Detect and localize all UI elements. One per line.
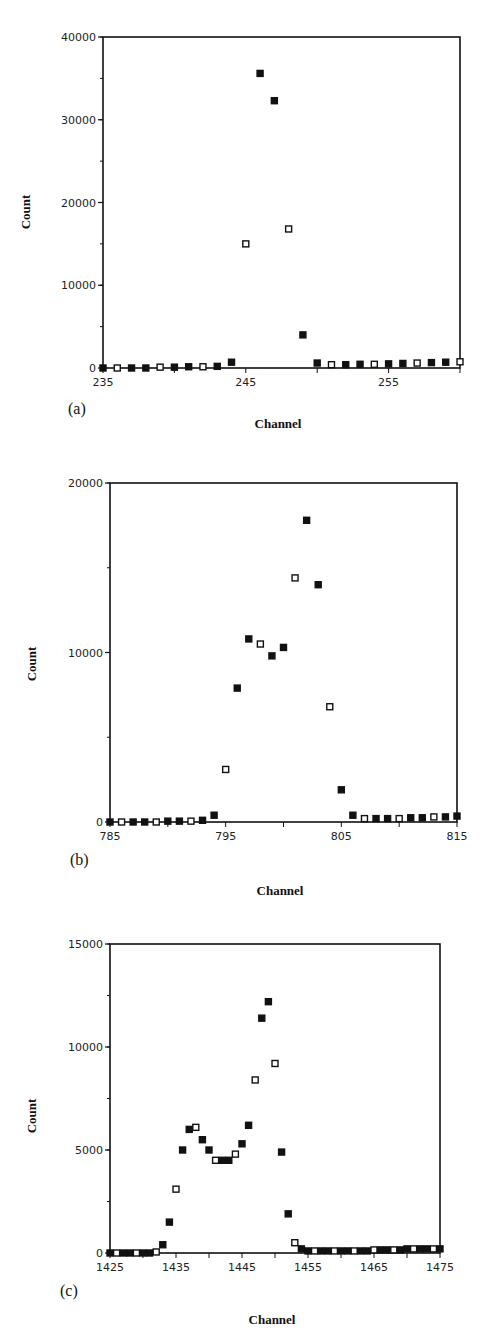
data-point [350,812,356,818]
panel-label-a: (a) [68,400,86,418]
data-point [153,1249,159,1255]
data-point [442,814,448,820]
plot-area-b: 01000020000785795805815 [68,477,468,843]
x-tick-label: 1455 [294,1261,322,1274]
data-point [457,359,463,365]
data-point [130,819,136,825]
plot-frame [110,483,457,822]
data-point [404,1246,410,1252]
y-axis-title-c: Count [24,1098,39,1133]
y-tick-label: 15000 [68,938,103,951]
data-point [361,816,367,822]
x-axis-title-b: Channel [257,883,304,898]
plot-frame [110,944,440,1253]
data-point [114,1250,120,1256]
y-tick-label: 0 [96,1247,103,1260]
data-point [272,1060,278,1066]
data-point [229,359,235,365]
data-point [304,517,310,523]
plot-area-c: 050001000015000142514351445145514651475 [68,938,454,1274]
data-point [419,815,425,821]
data-point [193,1124,199,1130]
data-point [252,1077,258,1083]
plot-area-a: 010000200003000040000235245255 [61,31,463,389]
data-point [454,813,460,819]
data-point [357,361,363,367]
data-point [214,363,220,369]
data-point [430,1246,436,1252]
data-point [286,226,292,232]
x-tick-label: 805 [331,830,352,843]
data-point [325,1248,331,1254]
y-tick-label: 10000 [61,279,96,292]
x-tick-label: 1465 [360,1261,388,1274]
data-point [385,816,391,822]
data-point [129,365,135,371]
x-tick-label: 1425 [96,1261,124,1274]
panel-label-c: (c) [60,1282,78,1300]
data-point [397,1247,403,1253]
x-tick-label: 245 [235,376,256,389]
data-point [157,364,163,370]
data-point [437,1246,443,1252]
data-point [119,819,125,825]
data-point [147,1250,153,1256]
x-tick-label: 815 [447,830,468,843]
y-axis-title-b: Count [24,646,39,681]
data-point [411,1246,417,1252]
scatter-chart-b: 01000020000785795805815 Count Channel (b… [0,440,486,900]
data-point [211,812,217,818]
data-point [371,1247,377,1253]
y-tick-label: 10000 [68,647,103,660]
scatter-chart-a: 010000200003000040000235245255 Count Cha… [0,0,486,440]
data-point [271,98,277,104]
data-point [226,1157,232,1163]
data-point [213,1157,219,1163]
data-point [417,1246,423,1252]
data-point [300,332,306,338]
data-point [312,1248,318,1254]
data-point [160,1242,166,1248]
data-point [364,1248,370,1254]
data-point [200,364,206,370]
data-point [400,360,406,366]
data-point [281,644,287,650]
scatter-chart-c: 050001000015000142514351445145514651475 … [0,900,486,1332]
data-point [165,818,171,824]
data-point [443,359,449,365]
data-point [396,816,402,822]
data-point [143,365,149,371]
y-tick-label: 5000 [75,1144,103,1157]
data-point [265,999,271,1005]
data-point [246,636,252,642]
data-point [186,364,192,370]
panel-a: 010000200003000040000235245255 Count Cha… [0,0,486,440]
data-point [292,575,298,581]
data-point [200,817,206,823]
y-tick-label: 20000 [61,197,96,210]
data-point [140,1250,146,1256]
panel-b: 01000020000785795805815 Count Channel (b… [0,440,486,900]
data-point [107,1250,113,1256]
data-point [166,1219,172,1225]
data-point [343,362,349,368]
data-point [107,819,113,825]
data-point [243,241,249,247]
data-point [246,1122,252,1128]
data-point [232,1151,238,1157]
x-axis-title-a: Channel [255,416,302,431]
x-tick-label: 255 [378,376,399,389]
y-tick-label: 20000 [68,477,103,490]
x-tick-label: 235 [93,376,114,389]
data-point [327,704,333,710]
x-tick-label: 1475 [426,1261,454,1274]
data-point [206,1147,212,1153]
data-point [219,1157,225,1163]
data-point [384,1247,390,1253]
data-point [331,1248,337,1254]
y-tick-label: 10000 [68,1041,103,1054]
data-point [305,1248,311,1254]
data-point [318,1248,324,1254]
data-point [279,1149,285,1155]
data-point [133,1250,139,1256]
